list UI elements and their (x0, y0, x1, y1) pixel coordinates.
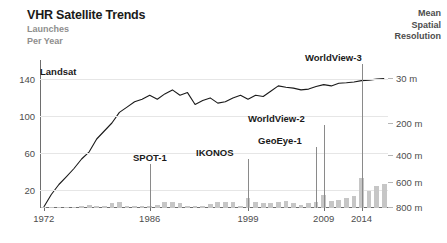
x-axis-tick-label: 2014 (351, 213, 372, 224)
gridline (40, 190, 388, 191)
chart-root: VHR Satellite Trends Launches Per Year M… (0, 0, 447, 243)
bar (87, 205, 92, 208)
annotation-leader-line (248, 159, 249, 208)
resolution-polyline (44, 79, 384, 208)
bar (284, 201, 289, 208)
annotation-leader-line (150, 164, 151, 208)
annotation-leader-line (324, 125, 325, 208)
y-axis-tick-label: 100 (19, 110, 35, 121)
bar (125, 206, 130, 208)
bar (79, 206, 84, 208)
bar (382, 184, 387, 208)
y-axis-tick-label: 140 (19, 73, 35, 84)
bar (102, 206, 107, 208)
plot-area: 206010014030 m200 m400 m600 m800 m197219… (40, 60, 388, 208)
bar (231, 202, 236, 208)
bar (57, 207, 62, 209)
y2-axis-tick-label: 800 m (396, 202, 422, 213)
bar (344, 198, 349, 208)
annotation-leader-line (362, 64, 363, 208)
y2-axis-tick-label: 30 m (396, 73, 417, 84)
bar (72, 207, 77, 209)
bar (336, 200, 341, 208)
page-title: VHR Satellite Trends (27, 8, 145, 22)
y2-axis-tick-mark (388, 78, 393, 79)
y-axis-tick-label: 60 (24, 147, 35, 158)
bar (208, 204, 213, 208)
x-axis-tick-mark (150, 208, 151, 211)
chart-subtitle: Launches Per Year (27, 24, 69, 47)
annotation-label-worldview-2: WorldView-2 (248, 113, 305, 124)
bar (170, 202, 175, 208)
bar (215, 202, 220, 208)
x-axis-tick-label: 2009 (313, 213, 334, 224)
bar (155, 205, 160, 208)
bar (41, 207, 46, 209)
bar (374, 186, 379, 208)
bar (276, 202, 281, 208)
x-axis-tick-label: 1999 (237, 213, 258, 224)
right-axis-title: Mean Spatial Resolution (321, 8, 441, 43)
annotation-label-geoeye-1: GeoEye-1 (258, 135, 302, 146)
x-axis-tick-mark (362, 208, 363, 211)
bar (49, 207, 54, 209)
x-axis-tick-label: 1986 (139, 213, 160, 224)
bar (299, 205, 304, 208)
bar (185, 206, 190, 208)
annotation-leader-line (316, 147, 317, 208)
x-axis-tick-mark (324, 208, 325, 211)
annotation-label-landsat: Landsat (40, 66, 76, 77)
bar (268, 203, 273, 208)
bar (162, 202, 167, 208)
gridline (40, 116, 388, 117)
y2-axis-tick-label: 200 m (396, 118, 422, 129)
annotation-label-ikonos: IKONOS (196, 147, 233, 158)
y2-axis-tick-mark (388, 182, 393, 183)
gridline (40, 79, 388, 80)
resolution-line-series (40, 60, 388, 208)
bar (140, 206, 145, 208)
bar (223, 202, 228, 208)
x-axis-tick-mark (44, 208, 45, 211)
bar (178, 203, 183, 208)
x-axis-tick-label: 1972 (33, 213, 54, 224)
bar (261, 203, 266, 208)
bar (110, 203, 115, 208)
bar (367, 191, 372, 208)
bar (117, 202, 122, 208)
bar (291, 203, 296, 208)
bar (94, 206, 99, 208)
x-axis-tick-mark (248, 208, 249, 211)
y2-axis-tick-mark (388, 207, 393, 208)
bar (329, 201, 334, 208)
annotation-label-spot-1: SPOT-1 (133, 152, 167, 163)
bar (253, 202, 258, 208)
bar (238, 206, 243, 208)
y2-axis-tick-label: 400 m (396, 150, 422, 161)
bar (352, 196, 357, 208)
y2-axis-tick-mark (388, 155, 393, 156)
bar (132, 206, 137, 208)
y2-axis-tick-label: 600 m (396, 177, 422, 188)
annotation-label-worldview-3: WorldView-3 (305, 52, 362, 63)
bar (200, 206, 205, 208)
y-axis-tick-label: 20 (24, 184, 35, 195)
bar (306, 203, 311, 208)
bar (64, 207, 69, 209)
bar (193, 206, 198, 208)
y2-axis-tick-mark (388, 123, 393, 124)
